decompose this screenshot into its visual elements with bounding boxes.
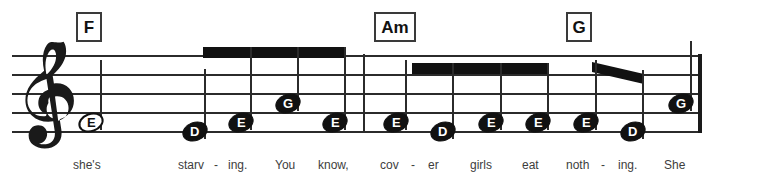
lyric-syllable: cov [380,158,399,172]
lyric-hyphen: - [411,158,415,172]
note-letter: E [392,115,401,130]
lyric-syllable: You [275,158,295,172]
staff-line-1 [12,55,700,57]
note-letter: E [87,115,96,130]
chord-box-g[interactable]: G [566,12,592,42]
chord-box-am[interactable]: Am [374,12,416,42]
lyric-syllable: girls [470,158,492,172]
lyric-hyphen: - [214,158,218,172]
note-letter: D [628,124,637,139]
note-letter: G [283,96,293,111]
note-letter: D [438,124,447,139]
note-letter: G [676,96,686,111]
chord-label: G [572,18,585,37]
lyric-syllable: noth [566,158,589,172]
staff-line-5 [12,131,700,133]
barline-2 [698,54,702,133]
chord-box-f[interactable]: F [76,12,102,42]
beam-group-1 [203,47,345,58]
note-letter: E [534,115,543,130]
note-letter: D [190,124,199,139]
lyric-syllable: eat [522,158,539,172]
chord-label: F [84,18,94,37]
chord-label: Am [381,18,408,37]
lyric-syllable: know, [318,158,349,172]
lyric-syllable: starv [178,158,204,172]
music-score-sheet: F Am G EDEGEEDEEEDG she'sstarving.Youkno… [0,0,760,185]
note-letter: E [331,115,340,130]
lyric-syllable: ing. [618,158,637,172]
barline-1 [363,54,365,133]
note-letter: E [582,115,591,130]
lyric-syllable: She [664,158,685,172]
note-letter: E [487,115,496,130]
note-letter: E [237,115,246,130]
lyric-syllable: er [428,158,439,172]
lyric-syllable: ing. [228,158,247,172]
beam-group-3 [592,62,644,84]
lyric-hyphen: - [601,158,605,172]
lyric-syllable: she's [73,158,101,172]
beam-group-2 [412,63,548,74]
